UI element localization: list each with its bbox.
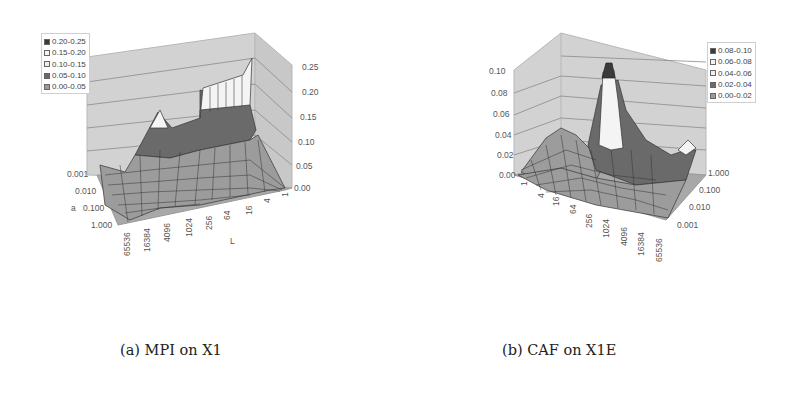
caption-b: (b) CAF on X1E — [502, 342, 616, 358]
legend-swatch-icon — [44, 50, 50, 56]
legend-item: 0.06-0.08 — [710, 56, 752, 67]
z-tick: 0.05 — [296, 161, 313, 171]
legend-item: 0.00-0.02 — [710, 90, 752, 101]
z-tick: 0.15 — [300, 112, 317, 122]
legend-swatch-icon — [44, 84, 50, 90]
x-tick: 16384 — [142, 228, 152, 252]
legend-swatch-icon — [710, 70, 716, 76]
y-tick: 0.100 — [699, 185, 720, 195]
y-tick: 0.010 — [75, 186, 96, 196]
legend-swatch-icon — [44, 39, 50, 45]
legend-swatch-icon — [44, 73, 50, 79]
z-tick: 0.02 — [497, 150, 514, 160]
z-tick: 0.10 — [489, 66, 506, 76]
legend-item: 0.02-0.04 — [710, 79, 752, 90]
x-tick: 16 — [244, 206, 254, 215]
y-tick: 0.010 — [689, 202, 710, 212]
legend-item: 0.00-0.05 — [44, 81, 86, 92]
z-tick: 0.08 — [491, 88, 508, 98]
legend-item: 0.15-0.20 — [44, 47, 86, 58]
z-tick: 0.20 — [302, 87, 319, 97]
z-tick: 0.06 — [493, 109, 510, 119]
y-tick: 1.000 — [708, 168, 729, 178]
x-tick: 1 — [280, 192, 290, 197]
x-tick: 64 — [568, 205, 578, 214]
x-tick: 16384 — [636, 232, 646, 256]
legend-item: 0.20-0.25 — [44, 36, 86, 47]
x-tick: 1 — [519, 181, 529, 186]
z-tick: 0.00 — [294, 183, 311, 193]
x-tick: 1024 — [184, 218, 194, 237]
x-tick: 64 — [222, 211, 232, 220]
legend-swatch-icon — [710, 82, 716, 88]
x-tick: 4096 — [619, 227, 629, 246]
z-tick: 0.00 — [499, 170, 516, 180]
y-tick: 0.001 — [677, 220, 698, 230]
chart-panel-a: 0.20-0.25 0.15-0.20 0.10-0.15 0.05-0.10 … — [0, 0, 395, 398]
legend-swatch-icon — [710, 93, 716, 99]
caption-a: (a) MPI on X1 — [120, 342, 222, 358]
legend-item: 0.10-0.15 — [44, 59, 86, 70]
x-axis-label: L — [230, 236, 235, 246]
legend-b: 0.08-0.10 0.06-0.08 0.04-0.06 0.02-0.04 … — [707, 42, 756, 103]
z-tick: 0.25 — [302, 62, 319, 72]
x-tick: 4 — [262, 198, 272, 203]
legend-swatch-icon — [44, 61, 50, 67]
legend-swatch-icon — [710, 59, 716, 65]
legend-item: 0.04-0.06 — [710, 68, 752, 79]
y-axis-label: a — [71, 203, 76, 213]
x-tick: 256 — [204, 216, 214, 230]
x-tick: 4096 — [162, 223, 172, 242]
x-tick: 16 — [551, 197, 561, 206]
x-tick: 256 — [584, 214, 594, 228]
y-tick: 1.000 — [91, 220, 112, 230]
y-tick: 0.001 — [67, 169, 88, 179]
x-tick: 65536 — [654, 238, 664, 262]
legend-swatch-icon — [710, 48, 716, 54]
y-tick: 0.100 — [83, 203, 104, 213]
legend-a: 0.20-0.25 0.15-0.20 0.10-0.15 0.05-0.10 … — [41, 33, 90, 94]
x-tick: 4 — [536, 193, 546, 198]
z-tick: 0.10 — [298, 137, 315, 147]
z-tick: 0.04 — [495, 130, 512, 140]
chart-panel-b: 0.08-0.10 0.06-0.08 0.04-0.06 0.02-0.04 … — [396, 0, 791, 398]
legend-item: 0.08-0.10 — [710, 45, 752, 56]
legend-item: 0.05-0.10 — [44, 70, 86, 81]
x-tick: 1024 — [601, 219, 611, 238]
x-tick: 65536 — [122, 232, 132, 256]
